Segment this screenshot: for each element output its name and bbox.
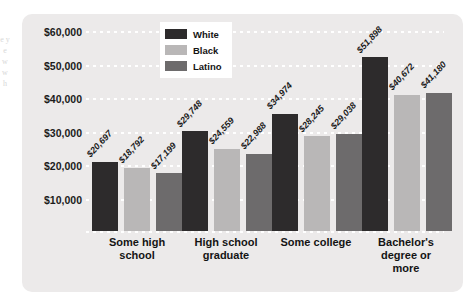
bar-black-high-school-graduate[interactable] (214, 149, 240, 231)
bar-fill (124, 168, 150, 231)
x-category-bachelors-degree-or-more: Bachelor's degree or more (351, 236, 461, 275)
y-tick-30000: $30,000 (44, 127, 82, 139)
x-category-line2: graduate (171, 249, 281, 262)
bar-black-bachelors-degree-or-more[interactable] (394, 95, 420, 231)
value-label-latino-some-college: $29,038 (329, 100, 359, 131)
bar-fill (214, 149, 240, 231)
legend-label-latino: Latino (193, 61, 222, 72)
y-tick-60000: $60,000 (44, 26, 82, 38)
legend-swatch-black-icon (165, 45, 187, 55)
y-tick-40000: $40,000 (44, 93, 82, 105)
legend-label-white: White (193, 29, 219, 40)
bar-white-high-school-graduate[interactable] (182, 131, 208, 231)
legend-label-black: Black (193, 45, 218, 56)
bar-latino-some-college[interactable] (336, 134, 362, 231)
bar-white-bachelors-degree-or-more[interactable] (362, 57, 388, 231)
page-bleed-text: e y e w w h (0, 34, 10, 194)
bar-fill (272, 114, 298, 231)
y-axis: $60,000 $50,000 $40,000 $30,000 $20,000 … (22, 30, 82, 233)
bar-white-some-college[interactable] (272, 114, 298, 231)
y-tick-10000: $10,000 (44, 194, 82, 206)
bar-fill (156, 173, 182, 231)
value-label-latino-high-school-graduate: $22,988 (239, 121, 269, 152)
plot-area: $20,697 $18,792 $17,199 $29,748 $24,559 … (86, 30, 444, 233)
legend-swatch-latino-icon (165, 61, 187, 71)
value-label-white-some-high-school: $20,697 (85, 128, 115, 159)
bar-fill (394, 95, 420, 231)
legend-swatch-white-icon (165, 29, 187, 39)
bar-series-container: $20,697 $18,792 $17,199 $29,748 $24,559 … (86, 30, 444, 231)
legend-item-latino[interactable]: Latino (165, 58, 226, 74)
value-label-white-some-college: $34,974 (265, 81, 295, 112)
value-label-latino-bachelors-degree-or-more: $41,180 (419, 60, 449, 91)
bar-latino-some-high-school[interactable] (156, 173, 182, 231)
bar-fill (336, 134, 362, 231)
legend-item-black[interactable]: Black (165, 42, 226, 58)
y-tick-50000: $50,000 (44, 60, 82, 72)
value-label-latino-some-high-school: $17,199 (149, 140, 179, 171)
y-tick-20000: $20,000 (44, 160, 82, 172)
bar-black-some-high-school[interactable] (124, 168, 150, 231)
x-category-line3: more (351, 262, 461, 275)
value-label-black-some-college: $28,245 (297, 103, 327, 134)
bar-white-some-high-school[interactable] (92, 162, 118, 231)
legend: White Black Latino (160, 22, 232, 78)
bar-fill (362, 57, 388, 231)
bar-latino-bachelors-degree-or-more[interactable] (426, 93, 452, 231)
bar-fill (304, 136, 330, 231)
value-label-black-high-school-graduate: $24,559 (207, 115, 237, 146)
chart-figure: e y e w w h $60,000 $50,000 $40,000 $30,… (0, 0, 473, 304)
x-axis: Some high school High school graduate So… (86, 236, 444, 298)
bar-fill (426, 93, 452, 231)
value-label-white-high-school-graduate: $29,748 (175, 98, 205, 129)
x-category-line2: degree or (351, 249, 461, 262)
legend-item-white[interactable]: White (165, 26, 226, 42)
value-label-black-some-high-school: $18,792 (117, 135, 147, 166)
bar-fill (246, 154, 272, 231)
bar-black-some-college[interactable] (304, 136, 330, 231)
bar-fill (182, 131, 208, 231)
axis-baseline (86, 231, 444, 233)
bar-latino-high-school-graduate[interactable] (246, 154, 272, 231)
bar-fill (92, 162, 118, 231)
value-label-black-bachelors-degree-or-more: $40,672 (387, 61, 417, 92)
x-category-line1: Bachelor's (351, 236, 461, 249)
